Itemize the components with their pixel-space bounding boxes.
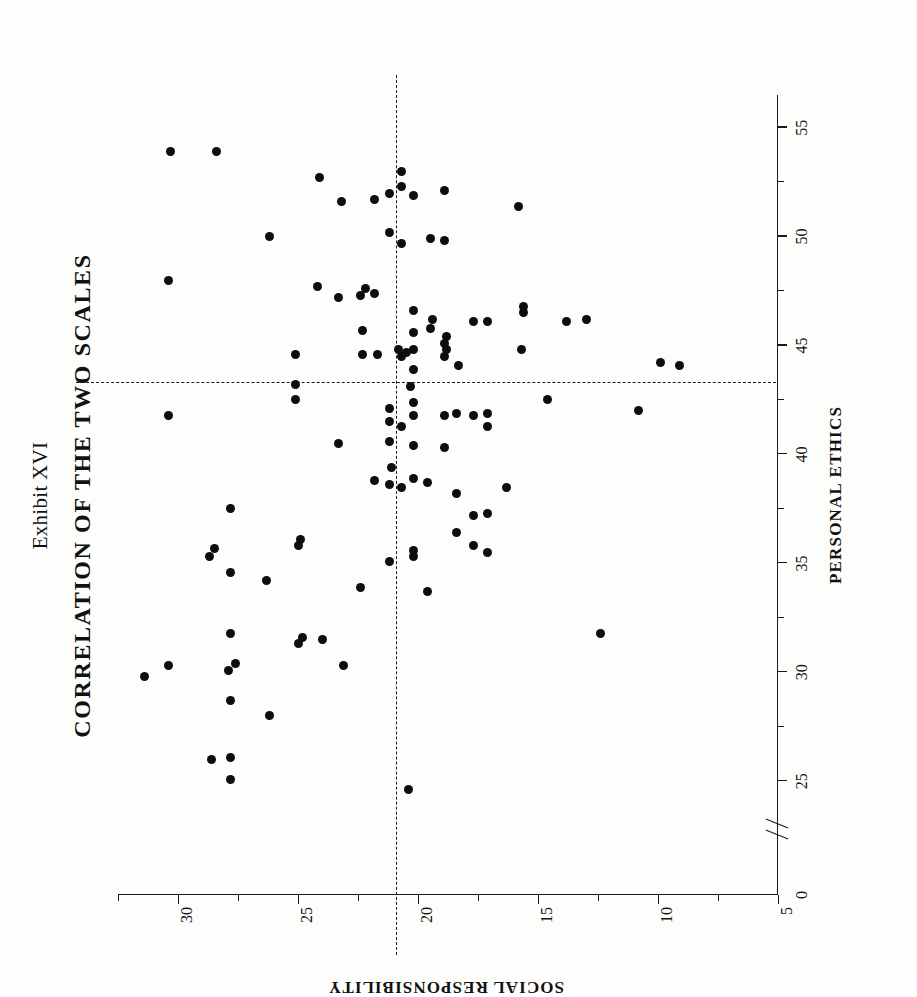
x-tick: [778, 726, 784, 727]
data-point: [337, 197, 346, 206]
data-point: [452, 528, 461, 537]
data-point: [231, 659, 240, 668]
data-point: [423, 587, 432, 596]
y-tick: [658, 895, 659, 904]
data-point: [596, 629, 605, 638]
data-point: [140, 672, 149, 681]
data-point: [409, 398, 418, 407]
x-tick: [778, 127, 787, 128]
data-point: [318, 635, 327, 644]
data-point: [370, 476, 379, 485]
data-point: [385, 437, 394, 446]
x-tick: [778, 508, 784, 509]
y-tick-label: 5: [778, 907, 796, 933]
data-point: [205, 552, 214, 561]
y-tick-label: 25: [298, 907, 316, 933]
data-point: [358, 350, 367, 359]
reference-line-vertical: [76, 382, 776, 383]
x-axis-break-icon: [765, 809, 789, 835]
data-point: [483, 422, 492, 431]
data-point: [452, 489, 461, 498]
data-point: [469, 411, 478, 420]
y-tick: [178, 895, 179, 904]
x-tick: [778, 399, 784, 400]
x-tick-label: 0: [793, 891, 811, 899]
x-tick: [778, 453, 787, 454]
data-point: [385, 557, 394, 566]
x-tick: [778, 617, 784, 618]
y-tick-label: 20: [418, 907, 436, 933]
title-block: Exhibit XVI CORRELATION OF THE TWO SCALE…: [28, 0, 96, 991]
x-axis-title: PERSONAL ETHICS: [826, 95, 846, 895]
data-point: [334, 439, 343, 448]
x-axis-line: [777, 95, 778, 895]
data-point: [361, 284, 370, 293]
data-point: [409, 191, 418, 200]
data-point: [164, 276, 173, 285]
data-point: [387, 463, 396, 472]
y-tick: [538, 895, 539, 904]
data-point: [409, 365, 418, 374]
data-point: [409, 328, 418, 337]
x-tick-label: 45: [793, 338, 811, 354]
data-point: [397, 422, 406, 431]
data-point: [291, 350, 300, 359]
x-tick-label: 25: [793, 773, 811, 789]
data-point: [514, 202, 523, 211]
data-point: [409, 546, 418, 555]
x-tick: [778, 780, 787, 781]
data-point: [298, 633, 307, 642]
y-tick: [478, 895, 479, 901]
data-point: [406, 382, 415, 391]
data-point: [397, 239, 406, 248]
data-point: [164, 661, 173, 670]
exhibit-label: Exhibit XVI: [28, 0, 53, 991]
data-point: [483, 548, 492, 557]
data-point: [339, 661, 348, 670]
y-tick-label: 30: [178, 907, 196, 933]
data-point: [313, 282, 322, 291]
data-point: [226, 696, 235, 705]
reference-line-horizontal: [396, 75, 397, 955]
data-point: [226, 753, 235, 762]
x-tick-label: 30: [793, 664, 811, 680]
data-point: [265, 232, 274, 241]
data-point: [397, 167, 406, 176]
data-point: [358, 326, 367, 335]
y-axis-title-wrap: SOCIAL RESPONSIBILITY: [118, 975, 778, 997]
y-tick: [118, 895, 119, 901]
y-tick: [778, 895, 779, 904]
data-point: [469, 541, 478, 550]
data-point: [385, 417, 394, 426]
data-point: [385, 404, 394, 413]
x-tick-label: 55: [793, 120, 811, 136]
data-point: [265, 711, 274, 720]
data-point: [262, 576, 271, 585]
data-point: [166, 147, 175, 156]
scatter-plot: 025303540455055 51015202530 PERSONAL ETH…: [118, 95, 778, 895]
y-tick-label: 15: [538, 907, 556, 933]
data-point: [226, 504, 235, 513]
data-point: [334, 293, 343, 302]
data-point: [409, 441, 418, 450]
data-point: [502, 483, 511, 492]
data-point: [562, 317, 571, 326]
data-point: [315, 173, 324, 182]
data-point: [409, 411, 418, 420]
data-point: [385, 228, 394, 237]
data-point: [442, 332, 451, 341]
data-point: [210, 544, 219, 553]
data-point: [519, 302, 528, 311]
data-point: [426, 234, 435, 243]
y-tick: [298, 895, 299, 904]
x-tick: [778, 671, 787, 672]
data-point: [440, 411, 449, 420]
data-point: [409, 345, 418, 354]
data-point: [385, 480, 394, 489]
x-tick-label: 50: [793, 229, 811, 245]
data-point: [397, 483, 406, 492]
y-tick: [358, 895, 359, 901]
data-point: [409, 306, 418, 315]
